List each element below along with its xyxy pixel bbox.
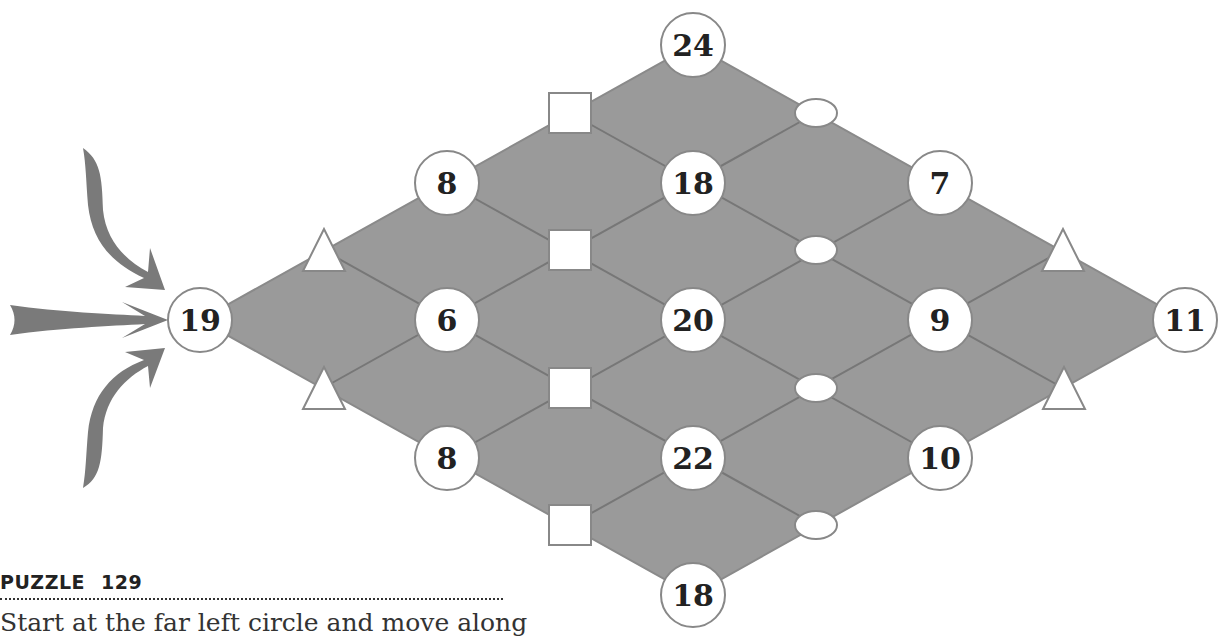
puzzle-instruction: Start at the far left circle and move al… — [0, 608, 527, 637]
node-value: 24 — [672, 28, 714, 63]
node-value: 10 — [919, 441, 961, 476]
node-value: 8 — [437, 166, 458, 201]
oval-icon — [795, 236, 837, 264]
square-icon — [549, 230, 591, 270]
puzzle-title: PUZZLE129 — [0, 571, 142, 593]
oval-icon — [795, 99, 837, 127]
node-value: 22 — [672, 441, 714, 476]
puzzle-number: 129 — [101, 571, 142, 593]
square-icon — [549, 505, 591, 545]
square-icon — [549, 93, 591, 133]
puzzle-label: PUZZLE — [0, 571, 85, 593]
node-value: 6 — [437, 303, 458, 338]
node-value: 9 — [930, 303, 951, 338]
oval-icon — [795, 511, 837, 539]
node-value: 20 — [672, 303, 714, 338]
oval-icon — [795, 374, 837, 402]
arrow-top-icon — [83, 148, 165, 290]
node-value: 8 — [437, 441, 458, 476]
square-icon — [549, 368, 591, 408]
node-value: 7 — [930, 166, 951, 201]
node-value: 11 — [1164, 303, 1206, 338]
arrow-icon-group — [10, 148, 168, 488]
arrow-middle-icon — [10, 302, 168, 338]
node-value: 18 — [672, 166, 714, 201]
node-value: 19 — [179, 303, 221, 338]
dotted-divider — [0, 598, 503, 600]
node-value: 18 — [672, 578, 714, 613]
arrow-bottom-icon — [83, 348, 165, 488]
